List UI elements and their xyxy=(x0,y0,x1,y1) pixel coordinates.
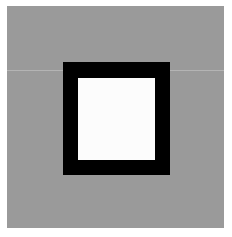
black-frame xyxy=(63,62,170,175)
white-square xyxy=(78,78,155,160)
caption-text xyxy=(0,229,232,237)
gray-background-panel xyxy=(7,6,224,228)
